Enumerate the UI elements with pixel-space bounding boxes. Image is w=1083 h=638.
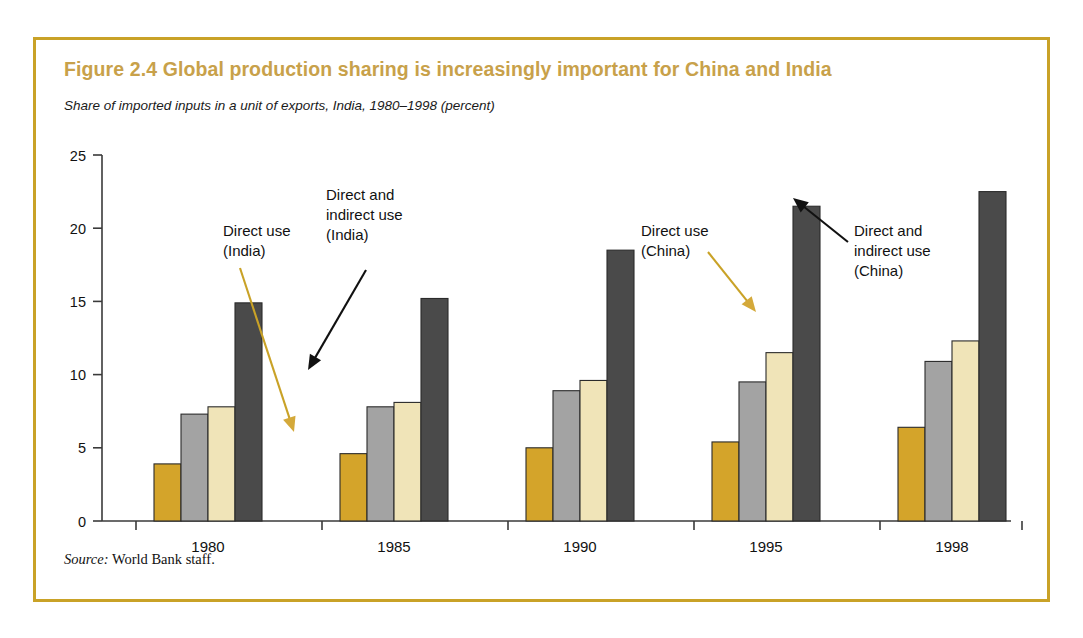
figure-frame: Figure 2.4 Global production sharing is … [33,37,1050,602]
bar[interactable] [979,192,1006,521]
source-text: World Bank staff. [109,551,215,567]
bar[interactable] [367,407,394,521]
x-tick-label: 1995 [749,538,782,555]
annotation-arrowhead [742,296,756,312]
x-tick-label: 1985 [377,538,410,555]
y-tick-label: 0 [78,514,86,530]
bar[interactable] [925,361,952,521]
bar[interactable] [580,380,607,521]
y-tick-label: 25 [70,148,86,164]
annotation-label: Direct and [326,186,394,203]
annotation-arrowhead [283,416,295,432]
bar[interactable] [553,391,580,521]
bar[interactable] [607,250,634,521]
annotation-label: Direct use [223,222,291,239]
bar[interactable] [739,382,766,521]
annotation-arrowhead [308,354,321,370]
y-tick-label: 20 [70,221,86,237]
annotation-label: (India) [326,226,369,243]
bar[interactable] [421,298,448,521]
bar[interactable] [526,448,553,521]
bar[interactable] [208,407,235,521]
x-tick-label: 1990 [563,538,596,555]
bar-chart: 051015202519801985199019951998Direct use… [36,40,1053,605]
annotation-direct-indirect-use-india: Direct andindirect use(India) [308,186,403,370]
bar[interactable] [793,206,820,521]
y-tick-label: 15 [70,294,86,310]
bar[interactable] [154,464,181,521]
y-tick-label: 5 [78,440,86,456]
bar[interactable] [181,414,208,521]
annotation-arrow [315,270,366,358]
bar[interactable] [766,353,793,521]
bar[interactable] [712,442,739,521]
bar[interactable] [235,303,262,521]
source-label: Source: [64,551,109,567]
annotation-label: (China) [641,242,690,259]
x-tick-label: 1998 [935,538,968,555]
bar[interactable] [394,402,421,521]
annotation-arrow [708,252,747,301]
bar[interactable] [952,341,979,521]
annotation-direct-use-china: Direct use(China) [641,222,756,312]
bar[interactable] [898,427,925,521]
y-tick-label: 10 [70,367,86,383]
annotation-label: indirect use [326,206,403,223]
annotation-label: Direct and [854,222,922,239]
annotation-label: indirect use [854,242,931,259]
source-note: Source: World Bank staff. [64,551,215,568]
annotation-label: Direct use [641,222,709,239]
bar[interactable] [340,454,367,521]
annotation-label: (China) [854,262,903,279]
annotation-label: (India) [223,242,266,259]
